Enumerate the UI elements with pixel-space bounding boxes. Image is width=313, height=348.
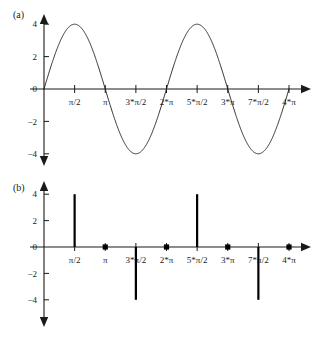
x-tick-label: π/2 [69,255,81,265]
y-tick-label: −4 [27,295,37,305]
zero-sample-marker [164,244,169,249]
y-tick-label: 2 [33,216,38,226]
y-tick-label: 4 [33,189,38,199]
discrete-stem-panel: (b) 420−2−4π/2π3*π/22*π5*π/23*π7*π/24*π [0,175,313,348]
y-axis-arrowhead-down [40,317,48,327]
stem-plot: 420−2−4π/2π3*π/22*π5*π/23*π7*π/24*π [0,175,313,348]
y-tick-label: −2 [27,269,37,279]
y-tick-label: 2 [33,52,38,62]
y-tick-label: −4 [27,149,37,159]
x-tick-label: 5*π/2 [187,97,208,107]
x-axis-arrowhead [301,243,311,251]
x-tick-label: π [103,255,108,265]
y-tick-label: −2 [27,117,37,127]
x-tick-label: 4*π [282,255,296,265]
y-tick-label: 4 [33,19,38,29]
zero-sample-marker [286,244,291,249]
x-axis-arrowhead [301,85,311,93]
continuous-sine-panel: (a) 420−2−4π/2π3*π/22*π5*π/23*π7*π/24*π [0,0,313,175]
x-tick-label: 3*π [221,255,235,265]
x-tick-label: 3*π/2 [126,97,147,107]
y-tick-label: 0 [33,84,38,94]
x-tick-label: π/2 [69,97,81,107]
x-tick-label: 7*π/2 [248,97,269,107]
zero-sample-marker [103,244,108,249]
sine-wave-plot: 420−2−4π/2π3*π/22*π5*π/23*π7*π/24*π [0,0,313,175]
x-tick-label: 5*π/2 [187,255,208,265]
y-axis-arrowhead-up [40,14,48,24]
zero-sample-marker [225,244,230,249]
y-axis-arrowhead-up [40,181,48,191]
y-tick-label: 0 [33,242,38,252]
x-tick-label: 2*π [160,255,174,265]
x-tick-label: π [103,97,108,107]
y-axis-arrowhead-down [40,156,48,166]
